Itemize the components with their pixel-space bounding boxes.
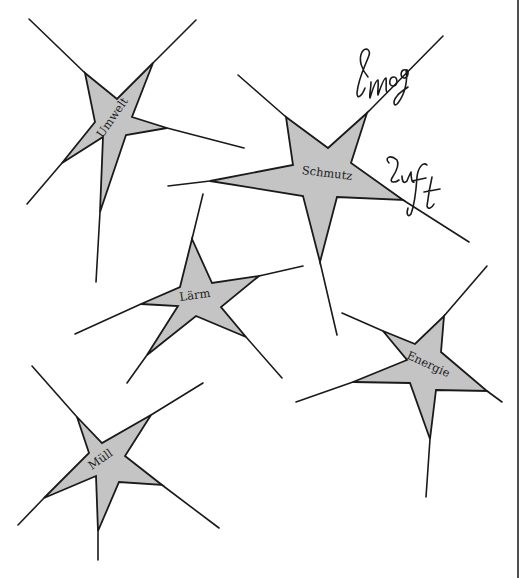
star-laerm: Lärm [75,194,303,383]
ray [127,355,147,383]
ray [18,498,44,525]
ray [151,383,203,415]
star-shape [62,63,167,212]
star-muell: Müll [18,366,219,560]
ray [153,20,196,63]
luft-handwriting [387,157,440,216]
star-shape [353,316,487,439]
annotation-luft [387,157,440,216]
ray [246,337,282,378]
ray [444,266,487,316]
ray [320,262,337,335]
ray [426,439,430,497]
star-energie: Energie [296,266,502,497]
ray [296,382,353,402]
ray [168,181,210,186]
ray [192,194,203,239]
star-umwelt: Umwelt [27,19,244,282]
ray [32,366,77,417]
ray [259,266,303,276]
ray [162,485,219,528]
ray [238,75,286,117]
ray [29,19,85,73]
star-diagram: Umwelt Schmutz Lärm Energie [0,0,520,578]
ray [75,304,141,334]
star-shape [44,415,162,531]
star-shape [210,113,403,262]
ray [487,391,502,402]
ray [27,163,62,204]
ray [96,212,100,282]
ray [342,313,383,331]
ray [167,128,244,148]
ray [367,36,443,113]
